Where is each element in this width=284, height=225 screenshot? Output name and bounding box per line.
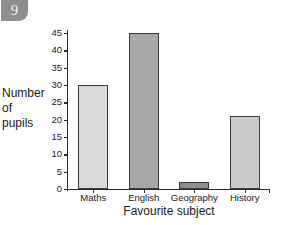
- x-category-label-maths: Maths: [80, 193, 106, 203]
- y-tick-label: 45: [51, 28, 62, 38]
- y-tick-label: 40: [51, 46, 62, 56]
- plot-area: 051015202530354045: [68, 33, 270, 189]
- bar-chart: Number of pupils 051015202530354045 Favo…: [0, 0, 284, 225]
- y-tick-label: 5: [57, 167, 62, 177]
- y-tick-mark: [64, 102, 68, 103]
- x-category-label-history: History: [230, 193, 260, 203]
- y-tick-mark: [64, 33, 68, 34]
- y-tick-label: 15: [51, 132, 62, 142]
- y-tick-label: 25: [51, 98, 62, 108]
- y-tick-mark: [64, 85, 68, 86]
- y-tick-label: 0: [57, 184, 62, 194]
- y-tick-mark: [64, 50, 68, 51]
- bar-history: [230, 116, 260, 189]
- y-tick-label: 35: [51, 63, 62, 73]
- y-tick-label: 20: [51, 115, 62, 125]
- y-tick-mark: [64, 68, 68, 69]
- worksheet-page: 9 Number of pupils 051015202530354045 Fa…: [0, 0, 284, 225]
- x-category-label-geography: Geography: [171, 193, 218, 203]
- y-tick-mark: [64, 120, 68, 121]
- x-axis-title: Favourite subject: [68, 205, 270, 218]
- bar-maths: [78, 85, 108, 189]
- y-tick-mark: [64, 154, 68, 155]
- y-tick-mark: [64, 172, 68, 173]
- x-axis-end-tick: [269, 189, 270, 193]
- y-tick-label: 10: [51, 150, 62, 160]
- y-tick-mark: [64, 137, 68, 138]
- x-category-label-english: English: [128, 193, 159, 203]
- y-tick-mark: [64, 189, 68, 190]
- bar-english: [129, 33, 159, 189]
- bar-geography: [179, 182, 209, 189]
- y-tick-label: 30: [51, 80, 62, 90]
